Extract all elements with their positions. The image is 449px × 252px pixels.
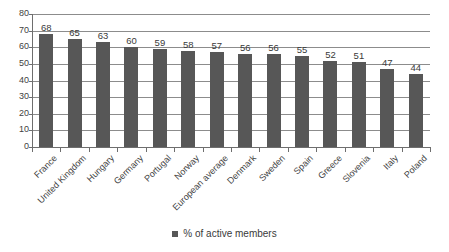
x-tickmark [402, 147, 403, 152]
legend-label: % of active members [183, 228, 276, 239]
bar [210, 52, 224, 147]
y-tick-label-0: 0 [5, 142, 29, 151]
bar-slot: 58 [174, 14, 202, 147]
bar-slot: 51 [345, 14, 373, 147]
x-category-label: Italy [382, 153, 401, 172]
x-tickmark [32, 147, 33, 152]
bar [68, 39, 82, 147]
bar-value-label: 51 [354, 51, 365, 61]
bar-slot: 56 [259, 14, 287, 147]
bar [295, 56, 309, 147]
bar-value-label: 59 [155, 38, 166, 48]
bar-chart: 80706050403020100 6865636059585756565552… [0, 0, 449, 252]
x-category-label: Poland [402, 153, 429, 180]
bar-value-label: 56 [240, 43, 251, 53]
bar-slot: 68 [32, 14, 60, 147]
x-tickmark [288, 147, 289, 152]
x-tickmark [345, 147, 346, 152]
bars-layer: 6865636059585756565552514744 [32, 14, 430, 147]
x-tickmark [231, 147, 232, 152]
x-category-label: Germany [111, 153, 144, 186]
x-axis-category-labels: FranceUnited KingdomHungaryGermanyPortug… [32, 153, 430, 219]
bar-slot: 60 [117, 14, 145, 147]
bar-slot: 59 [146, 14, 174, 147]
bar-slot: 47 [373, 14, 401, 147]
x-tickmark [373, 147, 374, 152]
x-tickmark [203, 147, 204, 152]
x-tickmark [259, 147, 260, 152]
bar-value-label: 56 [268, 43, 279, 53]
x-tickmark [316, 147, 317, 152]
bar [380, 69, 394, 147]
y-tick-label-20: 20 [5, 109, 29, 118]
bar-slot: 65 [60, 14, 88, 147]
bar [153, 49, 167, 147]
x-category-label: Sweden [257, 153, 287, 183]
bar [181, 51, 195, 147]
x-category-label: Denmark [225, 153, 258, 186]
bar-value-label: 55 [297, 45, 308, 55]
y-tick-label-50: 50 [5, 59, 29, 68]
bar-slot: 44 [402, 14, 430, 147]
y-tick-label-80: 80 [5, 9, 29, 18]
legend-swatch-icon [172, 231, 178, 237]
bar [96, 42, 110, 147]
y-axis-ticks: 80706050403020100 [0, 0, 29, 252]
bar-value-label: 44 [410, 63, 421, 73]
bar-value-label: 52 [325, 50, 336, 60]
x-tickmark [117, 147, 118, 152]
bar-slot: 56 [231, 14, 259, 147]
bar [323, 61, 337, 147]
x-category-label: France [32, 153, 59, 180]
y-tick-label-30: 30 [5, 92, 29, 101]
bar-slot: 52 [316, 14, 344, 147]
bar [267, 54, 281, 147]
bar-slot: 63 [89, 14, 117, 147]
y-tick-label-40: 40 [5, 76, 29, 85]
x-category-label: Slovenia [341, 153, 372, 184]
x-tickmark [174, 147, 175, 152]
bar-value-label: 65 [69, 28, 80, 38]
y-tick-label-70: 70 [5, 26, 29, 35]
x-tickmark [430, 147, 431, 152]
bar [39, 34, 53, 147]
x-tickmark [60, 147, 61, 152]
x-tickmark [89, 147, 90, 152]
y-tick-label-60: 60 [5, 42, 29, 51]
bar-value-label: 58 [183, 40, 194, 50]
x-category-label: Portugal [142, 153, 173, 184]
bar [352, 62, 366, 147]
bar-value-label: 68 [41, 23, 52, 33]
chart-legend: % of active members [0, 228, 449, 239]
y-tick-label-10: 10 [5, 125, 29, 134]
bar-slot: 55 [288, 14, 316, 147]
x-category-label: European average [170, 153, 229, 212]
bar-value-label: 47 [382, 58, 393, 68]
bar-slot: 57 [203, 14, 231, 147]
bar-value-label: 63 [98, 31, 109, 41]
bar-value-label: 60 [126, 36, 137, 46]
bar [124, 47, 138, 147]
x-tickmark [146, 147, 147, 152]
bar [409, 74, 423, 147]
bar [238, 54, 252, 147]
x-category-label: Spain [292, 153, 315, 176]
bar-value-label: 57 [211, 41, 222, 51]
